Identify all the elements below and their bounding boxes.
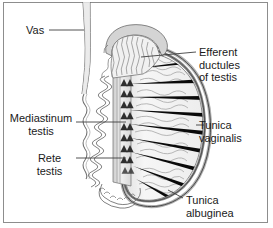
label-efferent-ductules: Efferent ductules of testis	[199, 46, 240, 84]
label-tunica-albuginea: Tunica albuginea	[186, 194, 234, 219]
label-tunica-vaginalis: Tunica vaginalis	[199, 119, 242, 144]
label-vas: Vas	[26, 24, 44, 37]
anatomical-figure: Vas Efferent ductules of testis Tunica v…	[0, 0, 273, 228]
vas-deferens	[82, 2, 90, 179]
label-mediastinum-testis: Mediastinum testis	[5, 112, 77, 137]
label-rete-testis: Rete testis	[22, 152, 77, 177]
